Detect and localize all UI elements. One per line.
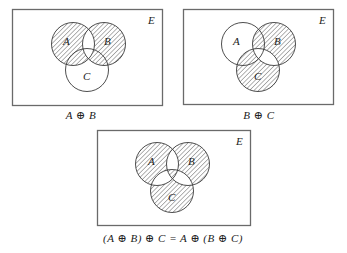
- universe-label: E: [318, 14, 326, 26]
- caption-b-xor-c: B ⊕ C: [243, 109, 274, 122]
- set-label-c: C: [83, 70, 91, 82]
- caption-associativity: (A ⊕ B) ⊕ C = A ⊕ (B ⊕ C): [103, 232, 243, 245]
- universe-label: E: [147, 14, 155, 26]
- caption-a-xor-b: A ⊕ B: [66, 109, 96, 122]
- venn-diagram-associativity: A B C E: [98, 131, 251, 226]
- venn-diagrams-canvas: A B C E A B C E A B C E: [0, 0, 347, 253]
- set-label-a: A: [232, 35, 240, 47]
- venn-diagram-a-xor-b: A B C E: [13, 10, 163, 106]
- set-label-c: C: [168, 191, 176, 203]
- set-label-b: B: [104, 35, 111, 47]
- venn-diagram-b-xor-c: A B C E: [184, 10, 334, 105]
- set-label-b: B: [188, 155, 195, 167]
- set-label-c: C: [254, 70, 262, 82]
- set-label-a: A: [62, 35, 70, 47]
- universe-label: E: [235, 135, 243, 147]
- set-label-a: A: [147, 155, 155, 167]
- set-label-b: B: [274, 35, 281, 47]
